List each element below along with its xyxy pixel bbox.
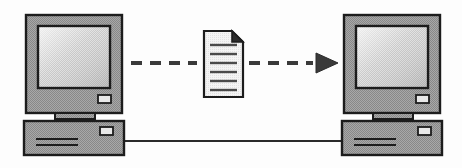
source-monitor [26,15,122,113]
diagram-canvas: File transfer between two computers [0,0,462,168]
document-fold-corner-icon [232,31,243,42]
target-base-unit [342,121,442,155]
target-monitor [344,15,440,113]
source-screen-glare [40,28,109,87]
source-power-indicator [98,95,111,103]
target-drive-slot [418,127,431,135]
target-screen-glare [358,28,427,87]
source-drive-slot [100,127,113,135]
target-monitor-stand [373,113,413,119]
transfer-arrowhead-icon [316,53,338,73]
target-computer[interactable]: Destination computer [342,15,442,155]
transfer-arrow-right-segment: Transfer direction arrow [249,53,338,73]
target-power-indicator [416,95,429,103]
source-base-unit [24,121,124,155]
source-monitor-stand [55,113,95,119]
source-computer[interactable]: Source computer [24,15,124,155]
document-icon[interactable]: Transferred document [204,31,243,97]
diagram-svg: Source computer Transferred document [0,0,462,168]
